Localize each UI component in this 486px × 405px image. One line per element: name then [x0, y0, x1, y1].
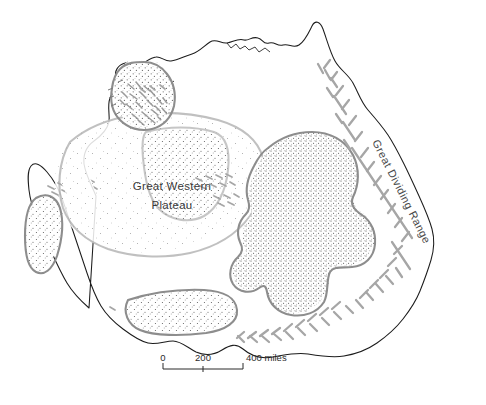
scale-label-start: 0 — [160, 352, 165, 363]
australia-physiographic-map: Great Western Plateau Great Dividing Ran… — [0, 0, 486, 405]
scale-bar: 0 200 400 miles — [160, 352, 287, 372]
label-great-western-plateau-line2: Plateau — [151, 199, 192, 211]
label-great-western-plateau-line1: Great Western — [133, 180, 211, 192]
scale-label-mid: 200 — [195, 352, 211, 363]
scale-label-end: 400 miles — [246, 352, 287, 363]
map-canvas: Great Western Plateau Great Dividing Ran… — [0, 0, 486, 405]
